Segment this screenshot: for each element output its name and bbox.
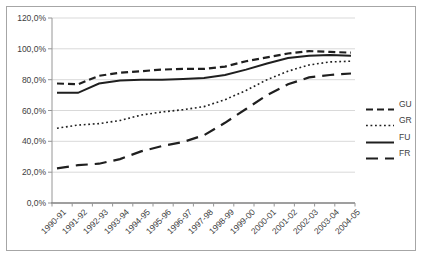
y-axis-label: 120,0% bbox=[6, 13, 46, 23]
legend-key-fu bbox=[366, 133, 394, 142]
legend-key-gu bbox=[366, 100, 394, 109]
legend-item-fr: FR bbox=[366, 146, 412, 163]
legend-key-fr bbox=[366, 149, 394, 158]
legend-label: FR bbox=[399, 149, 410, 158]
y-axis-label: 100,0% bbox=[6, 44, 46, 54]
legend-label: GR bbox=[399, 116, 412, 125]
legend-key-gr bbox=[366, 116, 394, 125]
y-axis-label: 0,0% bbox=[6, 198, 46, 208]
line-chart: 0,0% 20,0% 40,0% 60,0% 80,0% 100,0% 120,… bbox=[0, 0, 423, 257]
y-axis-label: 20,0% bbox=[6, 167, 46, 177]
legend-item-gu: GU bbox=[366, 96, 412, 113]
legend: GU GR FU FR bbox=[366, 96, 412, 162]
y-axis-label: 60,0% bbox=[6, 106, 46, 116]
legend-label: GU bbox=[399, 100, 412, 109]
y-axis-label: 80,0% bbox=[6, 75, 46, 85]
y-axis-label: 40,0% bbox=[6, 136, 46, 146]
legend-item-gr: GR bbox=[366, 113, 412, 130]
legend-item-fu: FU bbox=[366, 129, 412, 146]
legend-label: FU bbox=[399, 133, 410, 142]
